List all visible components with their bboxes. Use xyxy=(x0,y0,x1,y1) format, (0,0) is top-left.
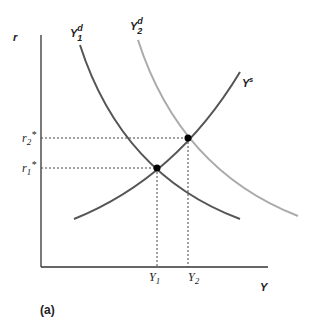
demand-curve-1 xyxy=(80,45,240,219)
x-axis-label: Y xyxy=(260,281,269,293)
equilibrium-point-1 xyxy=(154,165,161,172)
r1-star-label: r1* xyxy=(22,159,36,177)
y-axis-label: r xyxy=(13,31,18,43)
y1-label: Y1 xyxy=(149,270,160,286)
figure-caption: (a) xyxy=(40,303,55,317)
equilibrium-point-2 xyxy=(185,135,192,142)
y2-label: Y2 xyxy=(188,270,200,286)
is-lm-diagram: r Y Y1d Y2d Ys r2* r1* Y1 Y2 (a) xyxy=(0,0,316,331)
r2-star-label: r2* xyxy=(22,129,36,147)
demand-curve-1-label: Y1d xyxy=(70,23,83,43)
demand-curve-2 xyxy=(138,40,298,216)
demand-curve-2-label: Y2d xyxy=(130,16,143,36)
supply-curve-label: Ys xyxy=(242,76,253,89)
